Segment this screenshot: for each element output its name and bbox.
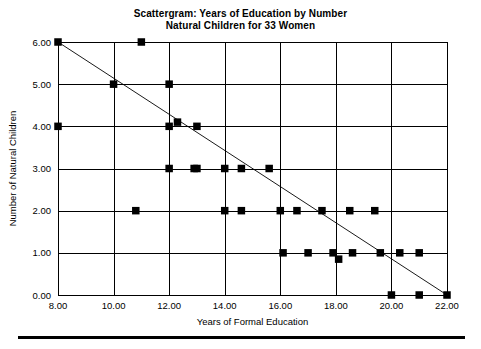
data-point-marker <box>174 118 182 126</box>
x-tick-label: 10.00 <box>102 300 126 311</box>
x-tick-label: 22.00 <box>435 300 459 311</box>
data-point-marker <box>396 249 404 256</box>
data-point-marker <box>346 207 354 215</box>
data-point-marker <box>277 207 285 215</box>
y-axis-title: Number of Natural Children <box>7 111 18 227</box>
data-point-marker <box>238 165 246 173</box>
data-point-marker <box>193 165 201 173</box>
data-point-marker <box>238 207 246 215</box>
data-point-marker <box>443 291 451 299</box>
data-point-marker <box>335 255 343 262</box>
data-point-marker <box>138 38 146 46</box>
regression-line-path <box>58 42 447 295</box>
regression-line <box>58 42 447 295</box>
data-point-marker <box>193 123 201 131</box>
data-point-marker <box>54 123 62 131</box>
x-tick-label: 8.00 <box>49 300 68 311</box>
y-tick-label: 0.00 <box>33 290 52 301</box>
data-point-marker <box>415 249 423 256</box>
data-point-marker <box>304 249 312 256</box>
x-tick-label: 14.00 <box>213 300 237 311</box>
data-point-marker <box>349 249 357 256</box>
data-point-marker <box>318 207 326 215</box>
data-point-marker <box>415 291 423 299</box>
data-point-marker <box>110 80 118 88</box>
y-tick-labels: 0.001.002.003.004.005.006.00 <box>33 37 52 301</box>
plot-area: 8.0010.0012.0014.0016.0018.0020.0022.00 … <box>0 0 481 349</box>
y-tick-label: 5.00 <box>33 79 52 90</box>
data-point-marker <box>371 207 379 215</box>
data-point-marker <box>221 207 229 215</box>
data-point-marker <box>54 38 62 46</box>
y-tick-label: 2.00 <box>33 205 52 216</box>
data-point-marker <box>221 165 229 173</box>
x-tick-label: 18.00 <box>324 300 348 311</box>
data-point-marker <box>377 249 385 256</box>
x-tick-label: 20.00 <box>380 300 404 311</box>
x-tick-label: 16.00 <box>268 300 292 311</box>
data-point-marker <box>388 291 396 299</box>
y-tick-label: 3.00 <box>33 163 52 174</box>
data-point-marker <box>265 165 273 173</box>
data-point-marker <box>279 249 287 256</box>
data-point-marker <box>165 80 173 88</box>
y-tick-label: 6.00 <box>33 37 52 48</box>
x-tick-label: 12.00 <box>157 300 181 311</box>
data-point-marker <box>293 207 301 215</box>
data-point-marker <box>165 165 173 173</box>
x-axis-title: Years of Formal Education <box>197 316 309 327</box>
y-tick-label: 1.00 <box>33 247 52 258</box>
footer-divider <box>18 336 465 339</box>
x-tick-labels: 8.0010.0012.0014.0016.0018.0020.0022.00 <box>49 300 459 311</box>
y-tick-label: 4.00 <box>33 121 52 132</box>
scattergram-figure: Scattergram: Years of Education by Numbe… <box>0 0 481 349</box>
data-point-marker <box>132 207 140 215</box>
data-point-marker <box>165 123 173 131</box>
